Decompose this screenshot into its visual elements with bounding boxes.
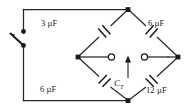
capacitor-c2-plate-b	[150, 29, 158, 38]
branch-c1-upper	[111, 11, 128, 27]
node-top	[126, 7, 131, 12]
branch-c4-upper	[157, 59, 177, 77]
switch-assembly[interactable]	[11, 29, 26, 48]
terminal-right-icon[interactable]	[141, 54, 147, 60]
branch-c4-lower	[130, 87, 147, 100]
node-bottom	[126, 98, 131, 103]
capacitor-c1-label: 3 µF	[41, 19, 57, 28]
branch-c2-lower	[157, 37, 177, 56]
capacitor-c2-label: 6 µF	[148, 19, 164, 28]
capacitor-c3-plate-a	[99, 75, 107, 83]
capacitor-c3-label: 6 µF	[40, 85, 56, 94]
branch-c3-upper	[80, 59, 100, 77]
ct-label: CT	[114, 79, 124, 90]
ct-arrow	[125, 56, 131, 78]
branch-c2-upper	[130, 11, 147, 27]
node-right	[176, 55, 181, 60]
capacitor-c1-plate-a	[98, 29, 106, 38]
capacitor-c4-plate-b	[149, 75, 157, 83]
capacitor-c1-plate-b	[102, 25, 110, 34]
capacitor-c3-symbol	[99, 75, 111, 87]
node-left	[76, 55, 81, 60]
ct-subscript: T	[120, 83, 124, 90]
capacitor-c4-label: 12 µF	[146, 86, 167, 95]
circuit-schematic-svg	[0, 0, 196, 112]
terminal-left-icon[interactable]	[108, 54, 114, 60]
ct-arrow-head	[125, 56, 131, 63]
node-switch-upper	[21, 29, 26, 34]
capacitor-c1-symbol	[98, 25, 110, 37]
circuit-diagram: 3 µF 6 µF 6 µF 12 µF CT	[0, 0, 196, 112]
branch-c1-lower	[80, 37, 100, 56]
capacitor-c3-plate-b	[102, 78, 110, 86]
